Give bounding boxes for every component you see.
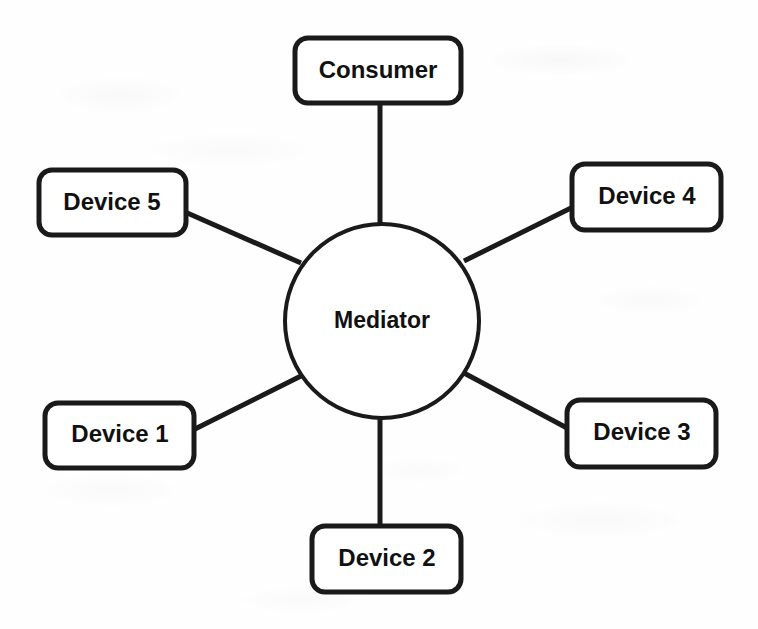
node-consumer[interactable]: Consumer bbox=[295, 38, 461, 103]
node-device-2[interactable]: Device 2 bbox=[312, 526, 461, 592]
mediator-topology-diagram: Mediator Consumer Device 5 Device 4 Devi… bbox=[0, 0, 758, 629]
node-device-4[interactable]: Device 4 bbox=[572, 164, 721, 230]
consumer-label: Consumer bbox=[319, 56, 438, 83]
diagram-canvas: Mediator Consumer Device 5 Device 4 Devi… bbox=[0, 0, 758, 629]
device-3-label: Device 3 bbox=[593, 418, 690, 445]
device-2-label: Device 2 bbox=[338, 544, 435, 571]
node-device-3[interactable]: Device 3 bbox=[567, 400, 716, 467]
edge-device-5-to-mediator bbox=[185, 212, 301, 263]
device-1-label: Device 1 bbox=[71, 420, 168, 447]
device-5-label: Device 5 bbox=[63, 188, 160, 215]
node-device-5[interactable]: Device 5 bbox=[39, 170, 186, 235]
device-4-label: Device 4 bbox=[598, 182, 696, 209]
edge-device-3-to-mediator bbox=[464, 373, 567, 428]
node-device-1[interactable]: Device 1 bbox=[45, 403, 194, 468]
node-mediator[interactable]: Mediator bbox=[285, 224, 479, 418]
edge-device-1-to-mediator bbox=[193, 375, 303, 430]
mediator-label: Mediator bbox=[334, 307, 430, 333]
edge-device-4-to-mediator bbox=[464, 207, 573, 261]
